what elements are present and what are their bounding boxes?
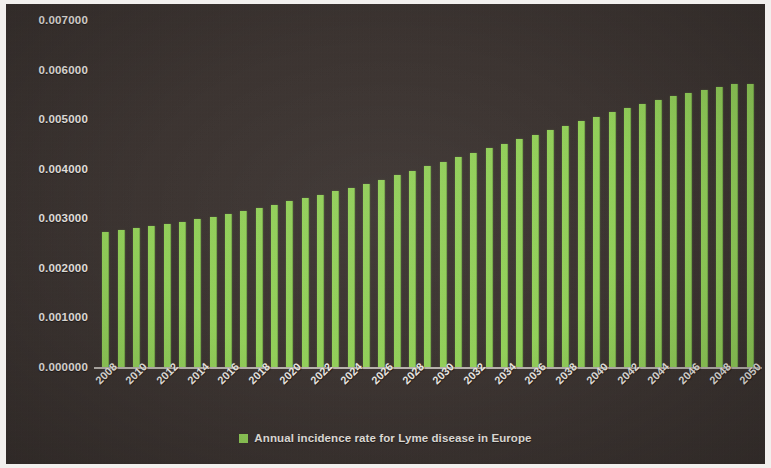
bar-slot xyxy=(727,20,742,367)
bar xyxy=(670,96,677,367)
bar-slot xyxy=(451,20,466,367)
bar xyxy=(148,226,155,367)
bar xyxy=(271,205,278,367)
bar-slot xyxy=(282,20,297,367)
bar xyxy=(394,175,401,367)
bar xyxy=(317,195,324,368)
bar-slot xyxy=(297,20,312,367)
bar xyxy=(532,135,539,367)
y-tick-label: 0.002000 xyxy=(38,262,88,274)
bar-slot xyxy=(482,20,497,367)
bar-slot xyxy=(604,20,619,367)
x-tick-label: 2008 xyxy=(93,360,119,386)
plot-area xyxy=(98,20,758,367)
bar-slot xyxy=(129,20,144,367)
bar-slot xyxy=(175,20,190,367)
bar xyxy=(747,84,754,367)
bar-slot xyxy=(589,20,604,367)
bar xyxy=(639,104,646,367)
y-axis: 0.0070000.0060000.0050000.0040000.003000… xyxy=(6,4,94,408)
bar xyxy=(378,180,385,367)
bar xyxy=(302,198,309,367)
legend-label: Annual incidence rate for Lyme disease i… xyxy=(254,432,531,444)
bar xyxy=(609,112,616,367)
y-tick-label: 0.005000 xyxy=(38,113,88,125)
y-tick-label: 0.006000 xyxy=(38,64,88,76)
bar xyxy=(102,232,109,367)
bar-slot xyxy=(512,20,527,367)
bar-slot xyxy=(251,20,266,367)
chart-legend: Annual incidence rate for Lyme disease i… xyxy=(6,432,765,444)
bar-slot xyxy=(436,20,451,367)
bar xyxy=(409,171,416,367)
bar xyxy=(562,126,569,367)
bar xyxy=(731,84,738,367)
bar xyxy=(470,153,477,367)
bar-slot xyxy=(144,20,159,367)
bar xyxy=(256,208,263,367)
bar xyxy=(164,224,171,367)
chart-screenshot: 0.0070000.0060000.0050000.0040000.003000… xyxy=(0,0,771,468)
y-tick-label: 0.007000 xyxy=(38,14,88,26)
bar-slot xyxy=(390,20,405,367)
bar xyxy=(348,188,355,367)
bar-slot xyxy=(650,20,665,367)
bar-slot xyxy=(159,20,174,367)
bar xyxy=(655,100,662,367)
bar-slot xyxy=(190,20,205,367)
y-tick-label: 0.004000 xyxy=(38,163,88,175)
bar-slot xyxy=(620,20,635,367)
bar xyxy=(440,162,447,367)
bar-slot xyxy=(98,20,113,367)
bar-slot xyxy=(405,20,420,367)
x-axis: 2008201020122014201620182020202220242026… xyxy=(98,372,758,422)
bar-slot xyxy=(113,20,128,367)
bar-slot xyxy=(359,20,374,367)
bar-slot xyxy=(742,20,757,367)
bar xyxy=(332,191,339,367)
bar-slot xyxy=(497,20,512,367)
bar xyxy=(179,222,186,367)
bar xyxy=(133,228,140,367)
bar-slot xyxy=(267,20,282,367)
bar-slot xyxy=(374,20,389,367)
bar-slot xyxy=(328,20,343,367)
bar xyxy=(194,219,201,367)
bar xyxy=(593,117,600,367)
bar-slot xyxy=(558,20,573,367)
bar xyxy=(685,93,692,367)
bar-slot xyxy=(696,20,711,367)
bar-slot xyxy=(528,20,543,367)
y-tick-label: 0.003000 xyxy=(38,212,88,224)
y-tick-label: 0.001000 xyxy=(38,311,88,323)
bar xyxy=(225,214,232,367)
bar xyxy=(424,166,431,367)
bar-chart-panel: 0.0070000.0060000.0050000.0040000.003000… xyxy=(6,4,765,464)
bar-slot xyxy=(635,20,650,367)
bar-slot xyxy=(681,20,696,367)
bar xyxy=(547,130,554,367)
bar xyxy=(716,87,723,367)
bar xyxy=(501,144,508,367)
bar-slot xyxy=(313,20,328,367)
legend-color-swatch xyxy=(239,434,248,443)
bar-slot xyxy=(543,20,558,367)
bar-slot xyxy=(666,20,681,367)
bar xyxy=(240,211,247,367)
bar-slot xyxy=(712,20,727,367)
bar xyxy=(516,139,523,367)
bar-slot xyxy=(574,20,589,367)
y-tick-label: 0.000000 xyxy=(38,361,88,373)
bar-slot xyxy=(466,20,481,367)
bar-slot xyxy=(236,20,251,367)
bar xyxy=(578,121,585,367)
bar xyxy=(210,217,217,367)
bar xyxy=(455,157,462,367)
bar xyxy=(486,148,493,367)
bar-slot xyxy=(205,20,220,367)
bar xyxy=(701,90,708,367)
bar xyxy=(118,230,125,367)
bar xyxy=(624,108,631,367)
bar xyxy=(286,201,293,367)
bar xyxy=(363,184,370,367)
